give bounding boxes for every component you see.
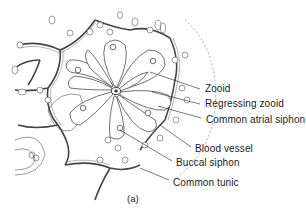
zooid-system xyxy=(66,40,171,139)
ascidian-colony-figure: Zooid Regressing zooid Common atrial sip… xyxy=(0,0,306,214)
label-blood-vessel: Blood vessel xyxy=(195,143,253,154)
label-regressing-zooid: Regressing zooid xyxy=(205,98,284,109)
label-buccal-siphon: Buccal siphon xyxy=(176,157,240,168)
label-zooid: Zooid xyxy=(205,83,231,94)
figure-caption: (a) xyxy=(127,193,139,204)
label-common-tunic: Common tunic xyxy=(173,177,239,188)
label-common-atrial-siphon: Common atrial siphon xyxy=(206,114,305,125)
